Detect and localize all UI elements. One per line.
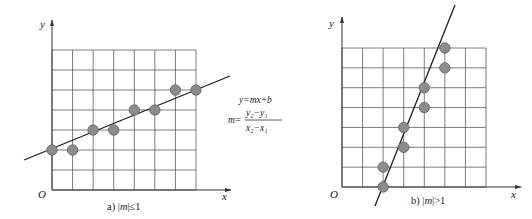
formula-line-equation: y=mx+b xyxy=(238,95,272,105)
x-axis-label-b: x xyxy=(510,188,516,200)
y-axis-label-a: y xyxy=(39,18,45,30)
pixel-points-a xyxy=(47,85,201,155)
pixel-point xyxy=(378,182,388,192)
grid-b xyxy=(342,48,486,187)
origin-label-b: O xyxy=(330,188,338,200)
pixel-point xyxy=(419,102,429,112)
pixel-point xyxy=(47,145,57,155)
caption-b: b) |m|>1 xyxy=(411,195,445,207)
pixel-point xyxy=(399,142,409,152)
line-rasterization-diagram: y x O a) |m|≤1 y=mx+b m= y₂−y₁ x₂−x₁ y x… xyxy=(0,0,532,219)
panel-b-steep-slope: y x O b) |m|>1 xyxy=(328,5,521,207)
caption-b-prefix: b) | xyxy=(411,195,424,207)
y-axis-label-b: y xyxy=(328,17,334,29)
x-axis-label-a: x xyxy=(221,190,227,202)
caption-b-suffix: |>1 xyxy=(432,195,445,206)
pixel-point xyxy=(440,43,450,53)
pixel-point xyxy=(440,63,450,73)
caption-a-prefix: a) | xyxy=(107,201,120,213)
panel-a-shallow-slope: y x O a) |m|≤1 xyxy=(24,18,231,213)
pixel-point xyxy=(88,125,98,135)
pixel-point xyxy=(419,83,429,93)
pixel-point xyxy=(109,125,119,135)
formula-numerator: y₂−y₁ xyxy=(245,108,267,118)
pixel-point xyxy=(170,85,180,95)
pixel-point xyxy=(150,105,160,115)
grid-a xyxy=(52,50,196,190)
fitted-line-b xyxy=(375,5,455,206)
caption-a-suffix: |≤1 xyxy=(127,201,140,212)
slope-formula: y=mx+b m= y₂−y₁ x₂−x₁ xyxy=(228,95,282,133)
pixel-point xyxy=(399,122,409,132)
pixel-point xyxy=(129,105,139,115)
origin-label-a: O xyxy=(38,188,46,200)
pixel-point xyxy=(191,85,201,95)
pixel-point xyxy=(67,145,77,155)
caption-a: a) |m|≤1 xyxy=(107,201,141,213)
pixel-point xyxy=(378,162,388,172)
formula-denominator: x₂−x₁ xyxy=(245,123,267,133)
formula-m-label: m= xyxy=(228,115,241,125)
